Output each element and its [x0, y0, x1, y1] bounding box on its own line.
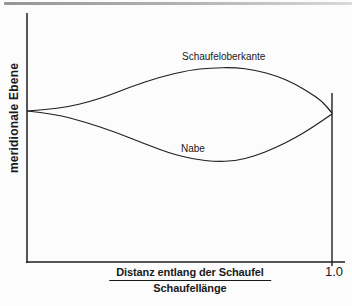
lower-curve-label: Nabe [181, 143, 205, 154]
curve-Schaufeloberkante [27, 68, 332, 113]
curves-group [27, 68, 332, 162]
x-max-tick-label: 1.0 [325, 264, 343, 279]
x-axis-label-numerator: Distanz entlang der Schaufel [109, 266, 271, 281]
x-axis-label-denominator: Schaufellänge [109, 281, 271, 295]
figure: meridionale Ebene Schaufeloberkante Nabe… [0, 0, 352, 306]
y-axis-label: meridionale Ebene [7, 63, 21, 173]
x-axis-label-fraction: Distanz entlang der Schaufel Schaufellän… [109, 266, 271, 295]
curve-Nabe [27, 111, 332, 161]
plot-canvas [0, 0, 352, 306]
upper-curve-label: Schaufeloberkante [182, 51, 265, 62]
